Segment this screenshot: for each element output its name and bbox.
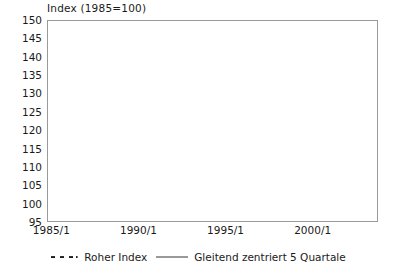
legend-dotted-icon — [49, 252, 79, 262]
y-axis-tick-labels: 15014514013513012512011511010510095 — [0, 20, 45, 222]
y-tick-label: 110 — [22, 162, 42, 173]
chart-legend: Roher IndexGleitend zentriert 5 Quartale — [0, 248, 395, 266]
x-tick-label: 1990/1 — [120, 225, 157, 236]
x-axis-tick-labels: 1985/11990/11995/12000/1 — [47, 225, 378, 241]
y-tick-label: 145 — [22, 33, 42, 44]
legend-label: Gleitend zentriert 5 Quartale — [194, 251, 346, 263]
y-tick-label: 135 — [22, 70, 42, 81]
y-tick-label: 105 — [22, 180, 42, 191]
y-tick-label: 120 — [22, 125, 42, 136]
y-tick-label: 125 — [22, 107, 42, 118]
y-tick-label: 150 — [22, 15, 42, 26]
chart-figure: Index (1985=100) 15014514013513012512011… — [0, 0, 395, 275]
x-tick-label: 1995/1 — [207, 225, 244, 236]
x-tick-label: 1985/1 — [33, 225, 70, 236]
legend-label: Roher Index — [84, 251, 147, 263]
chart-title: Index (1985=100) — [47, 2, 146, 14]
legend-entry: Roher Index — [49, 251, 147, 263]
y-tick-label: 100 — [22, 198, 42, 209]
legend-line-icon — [155, 252, 189, 262]
x-tick-label: 2000/1 — [294, 225, 331, 236]
y-tick-label: 140 — [22, 51, 42, 62]
legend-entry: Gleitend zentriert 5 Quartale — [155, 251, 346, 263]
y-tick-label: 130 — [22, 88, 42, 99]
y-tick-label: 115 — [22, 143, 42, 154]
plot-area — [47, 20, 378, 222]
plot-frame — [47, 20, 378, 222]
